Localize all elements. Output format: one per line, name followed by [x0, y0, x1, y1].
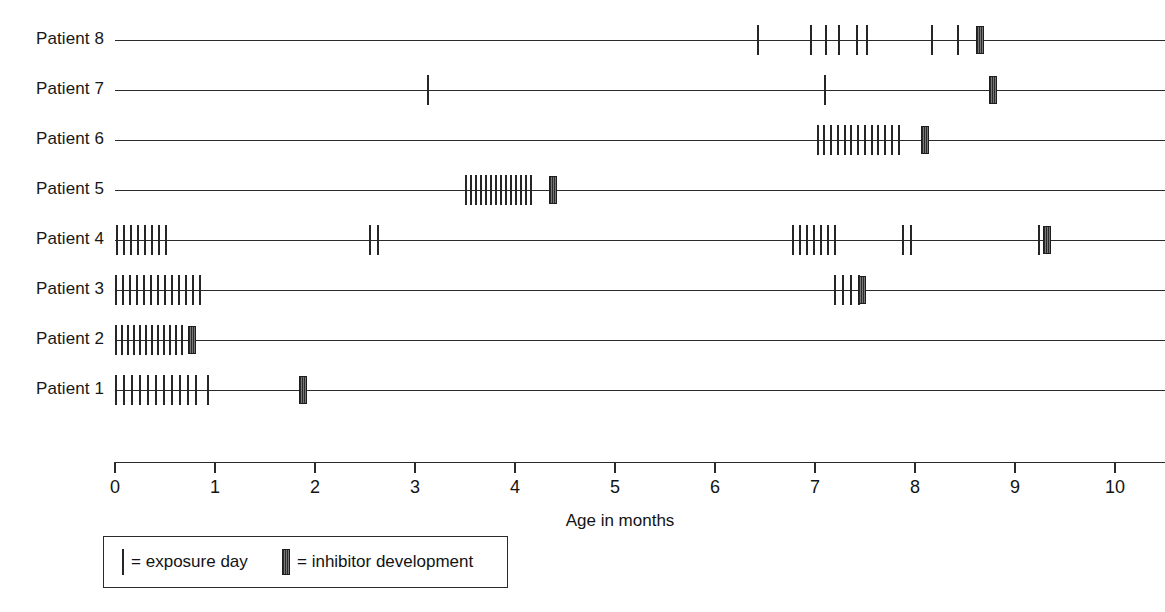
exposure-day-tick — [115, 375, 117, 405]
x-axis-tick-label: 5 — [595, 477, 635, 498]
exposure-day-tick — [820, 225, 822, 255]
inhibitor-development-marker-icon — [282, 549, 290, 575]
exposure-day-tick — [857, 125, 859, 155]
exposure-day-tick — [369, 225, 371, 255]
x-axis-tick — [1114, 462, 1116, 473]
legend-item-exposure-day: = exposure day — [122, 537, 248, 587]
patient-row-label: Patient 5 — [8, 179, 104, 199]
exposure-day-tick — [192, 275, 194, 305]
exposure-day-tick — [475, 175, 477, 205]
exposure-day-tick — [1038, 225, 1040, 255]
exposure-day-tick — [515, 175, 517, 205]
patient-row-label: Patient 3 — [8, 279, 104, 299]
patient-timeline-line — [115, 190, 1165, 191]
x-axis-tick — [714, 462, 716, 473]
x-axis-tick-label: 9 — [995, 477, 1035, 498]
x-axis-tick-label: 6 — [695, 477, 735, 498]
patient-timeline-line — [115, 290, 1165, 291]
exposure-day-tick — [834, 225, 836, 255]
exposure-day-tick — [823, 125, 825, 155]
exposure-day-tick — [171, 375, 173, 405]
exposure-day-tick — [178, 275, 180, 305]
exposure-day-tick — [207, 375, 209, 405]
x-axis-tick-label: 3 — [395, 477, 435, 498]
exposure-day-tick — [136, 275, 138, 305]
exposure-day-tick — [837, 125, 839, 155]
exposure-day-tick — [115, 275, 117, 305]
exposure-day-tick — [144, 225, 146, 255]
exposure-day-tick — [490, 175, 492, 205]
exposure-day-tick — [123, 225, 125, 255]
exposure-day-tick — [169, 325, 171, 355]
exposure-day-tick — [123, 375, 125, 405]
exposure-day-tick — [834, 275, 836, 305]
exposure-day-tick — [195, 375, 197, 405]
exposure-day-tick — [825, 25, 827, 55]
exposure-day-tick — [157, 325, 159, 355]
exposure-day-tick — [155, 375, 157, 405]
exposure-day-tick — [842, 275, 844, 305]
x-axis-tick — [814, 462, 816, 473]
exposure-day-tick — [139, 375, 141, 405]
inhibitor-development-bar — [858, 276, 866, 304]
x-axis-tick-label: 1 — [195, 477, 235, 498]
patient-timeline-line — [115, 90, 1165, 91]
legend-label-exposure-day: = exposure day — [131, 552, 248, 572]
exposure-day-tick — [187, 375, 189, 405]
exposure-day-tick — [757, 25, 759, 55]
exposure-day-tick — [465, 175, 467, 205]
exposure-day-tick — [151, 225, 153, 255]
patient-timeline-line — [115, 390, 1165, 391]
x-axis-tick — [1014, 462, 1016, 473]
exposure-day-tick — [181, 325, 183, 355]
exposure-day-tick — [891, 125, 893, 155]
exposure-day-tick — [877, 125, 879, 155]
x-axis-tick — [614, 462, 616, 473]
exposure-day-tick — [121, 325, 123, 355]
exposure-day-tick — [147, 375, 149, 405]
exposure-day-tick — [810, 25, 812, 55]
exposure-day-tick — [163, 325, 165, 355]
exposure-day-tick — [185, 275, 187, 305]
exposure-day-tick — [157, 275, 159, 305]
patient-timeline-line — [115, 140, 1165, 141]
x-axis-tick-label: 7 — [795, 477, 835, 498]
patient-timeline-line — [115, 40, 1165, 41]
exposure-day-tick — [143, 275, 145, 305]
exposure-day-tick — [844, 125, 846, 155]
exposure-day-tick — [830, 125, 832, 155]
exposure-day-tick — [199, 275, 201, 305]
exposure-day-tick — [133, 325, 135, 355]
exposure-day-tick — [470, 175, 472, 205]
exposure-day-tick — [827, 225, 829, 255]
inhibitor-development-bar — [299, 376, 307, 404]
exposure-day-tick — [151, 325, 153, 355]
patient-row-label: Patient 2 — [8, 329, 104, 349]
exposure-day-tick — [520, 175, 522, 205]
patient-row-label: Patient 7 — [8, 79, 104, 99]
exposure-day-tick — [806, 225, 808, 255]
exposure-day-marker-icon — [122, 549, 124, 575]
x-axis-tick — [214, 462, 216, 473]
x-axis-tick-label: 8 — [895, 477, 935, 498]
exposure-day-tick — [377, 225, 379, 255]
exposure-day-tick — [824, 75, 826, 105]
patient-row-label: Patient 4 — [8, 229, 104, 249]
x-axis-title: Age in months — [95, 511, 1145, 531]
exposure-day-tick — [485, 175, 487, 205]
exposure-day-tick — [179, 375, 181, 405]
exposure-day-tick — [813, 225, 815, 255]
exposure-day-tick — [122, 275, 124, 305]
exposure-day-tick — [871, 125, 873, 155]
x-axis-tick-label: 2 — [295, 477, 335, 498]
exposure-day-tick — [129, 275, 131, 305]
exposure-day-tick — [910, 225, 912, 255]
exposure-day-tick — [127, 325, 129, 355]
exposure-day-tick — [530, 175, 532, 205]
exposure-day-tick — [495, 175, 497, 205]
exposure-day-tick — [131, 375, 133, 405]
exposure-day-tick — [116, 225, 118, 255]
exposure-day-tick — [175, 325, 177, 355]
exposure-day-tick — [864, 125, 866, 155]
